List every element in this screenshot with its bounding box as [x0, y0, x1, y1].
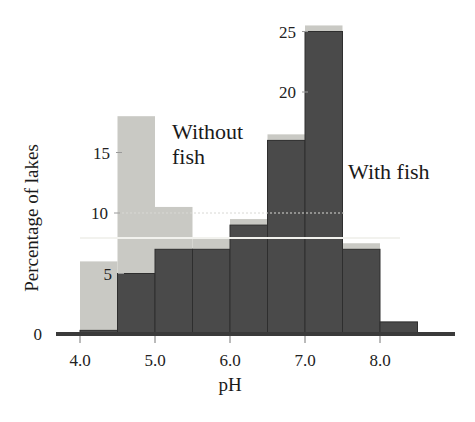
y-tick-label: 25 — [279, 23, 296, 42]
bar-with-fish — [343, 249, 381, 334]
bar-with-fish — [305, 32, 343, 335]
x-tick-label: 7.0 — [294, 351, 315, 370]
y-tick-label: 0 — [34, 325, 43, 344]
y-tick-label: 15 — [93, 144, 110, 163]
y-tick-label: 5 — [104, 265, 113, 284]
x-tick-label: 6.0 — [219, 351, 240, 370]
histogram-plot: 4.05.06.07.08.0 0510152025 pH Percentage… — [0, 0, 475, 422]
y-tick-label: 10 — [91, 204, 108, 223]
bar-with-fish — [193, 249, 231, 334]
annotation-without-fish-line1: Without — [172, 119, 243, 144]
x-axis-title: pH — [218, 374, 242, 395]
x-tick-label: 4.0 — [69, 351, 90, 370]
bar-with-fish — [155, 249, 193, 334]
x-tick-label: 8.0 — [369, 351, 390, 370]
y-axis-title: Percentage of lakes — [21, 144, 42, 292]
annotation-with-fish: With fish — [348, 159, 430, 184]
chart-container: 4.05.06.07.08.0 0510152025 pH Percentage… — [0, 0, 475, 422]
annotation-without-fish-line2: fish — [172, 144, 205, 169]
bar-with-fish — [230, 225, 268, 334]
bar-with-fish — [118, 274, 156, 335]
y-tick-label: 20 — [279, 83, 296, 102]
x-tick-label: 5.0 — [144, 351, 165, 370]
